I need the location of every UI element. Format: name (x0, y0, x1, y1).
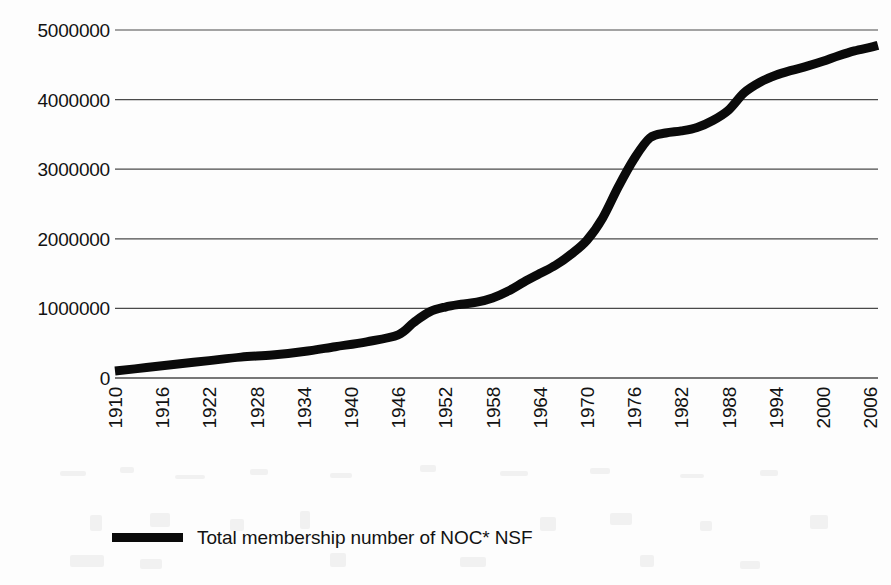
x-tick-label: 1922 (200, 387, 219, 428)
x-tick-label: 1994 (766, 387, 785, 428)
y-tick-label: 1000000 (2, 299, 110, 318)
y-axis: 500000040000003000000200000010000000 (0, 0, 110, 380)
x-tick-label: 2006 (861, 387, 880, 428)
x-tick-label: 1976 (625, 387, 644, 428)
x-tick-label: 1946 (389, 387, 408, 428)
x-tick-label: 1964 (530, 387, 549, 428)
line-chart-figure: 500000040000003000000200000010000000 191… (0, 0, 891, 585)
x-tick-label: 1988 (719, 387, 738, 428)
x-tick-label: 1982 (672, 387, 691, 428)
x-tick-label: 1916 (153, 387, 172, 428)
legend: Total membership number of NOC* NSF (112, 528, 532, 547)
scan-artifact-texture (0, 455, 891, 585)
y-tick-label: 5000000 (2, 21, 110, 40)
data-line-series-0 (115, 45, 878, 371)
legend-swatch-series-0 (112, 533, 183, 542)
x-tick-label: 1958 (483, 387, 502, 428)
x-tick-label: 1952 (436, 387, 455, 428)
x-tick-label: 1940 (341, 387, 360, 428)
x-tick-label: 1910 (106, 387, 125, 428)
y-tick-label: 3000000 (2, 160, 110, 179)
legend-label-series-0: Total membership number of NOC* NSF (197, 528, 532, 547)
data-series-group (115, 45, 878, 371)
x-tick-label: 2000 (813, 387, 832, 428)
y-tick-label: 2000000 (2, 229, 110, 248)
x-axis: 1910191619221928193419401946195219581964… (0, 383, 891, 463)
x-tick-label: 1934 (294, 387, 313, 428)
x-tick-label: 1928 (247, 387, 266, 428)
plot-area (115, 30, 878, 378)
plot-svg (115, 30, 878, 378)
x-tick-label: 1970 (577, 387, 596, 428)
y-tick-label: 4000000 (2, 90, 110, 109)
